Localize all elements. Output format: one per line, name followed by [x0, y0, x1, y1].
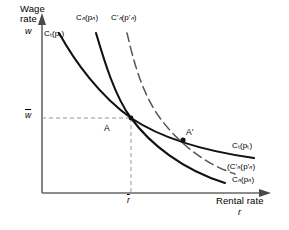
curve-ct: [59, 33, 254, 158]
curve-label-ct-right: Cₜ(pₜ): [232, 142, 252, 151]
y-axis-title-line2: rate: [20, 14, 45, 24]
curve-label-cn-top: Cₙ(pₙ): [76, 14, 98, 23]
point-label-a: A: [104, 124, 110, 133]
figure-economics-unit-cost-diagram: Wage rate w Rental rate r w r Cₜ(pₜ) Cₙ(…: [0, 0, 289, 230]
guide-lines: [42, 118, 131, 193]
x-axis-title: Rental rate: [216, 196, 264, 206]
x-axis-tick-label-rbar: r: [127, 196, 130, 205]
curve-label-cn-prime-right: (C'ₙ(p'ₙ): [227, 163, 255, 172]
y-axis-variable: w: [25, 27, 32, 37]
x-axis-variable: r: [238, 208, 241, 218]
curve-label-cn-prime-top: C'ₙ(p'ₙ): [111, 14, 136, 23]
y-axis: [38, 13, 46, 193]
point-label-a-prime: A′: [186, 128, 193, 137]
y-axis-tick-label-wbar: w: [25, 111, 31, 120]
point-a-marker: [129, 116, 134, 121]
curve-label-cn-right: Cₙ(pₙ): [232, 176, 254, 185]
y-axis-title: Wage rate: [20, 4, 45, 25]
point-a-prime-marker: [180, 137, 185, 142]
curve-label-ct-top: Cₜ(pₜ): [44, 30, 64, 39]
